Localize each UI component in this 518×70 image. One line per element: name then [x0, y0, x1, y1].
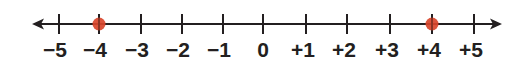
tick-label: +1 [291, 38, 315, 62]
tick-label: +3 [375, 38, 399, 62]
tick-label: +5 [459, 38, 483, 62]
tick-label: −4 [83, 38, 107, 62]
tick-label: 0 [257, 38, 269, 62]
tick-label: −1 [207, 38, 231, 62]
tick-label: +4 [417, 38, 441, 62]
tick-label: −3 [125, 38, 149, 62]
tick-label: −2 [166, 38, 190, 62]
tick-label: +2 [332, 38, 356, 62]
tick-label: −5 [43, 38, 67, 62]
